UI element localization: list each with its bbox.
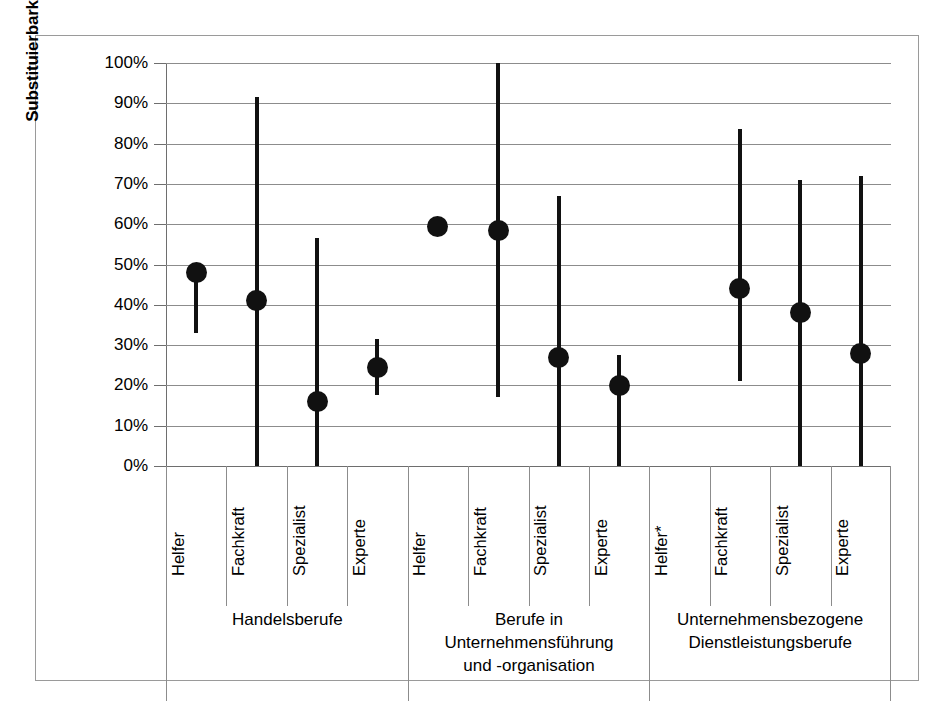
category-cell: Fachkraft xyxy=(468,466,528,606)
y-axis-tick-label: 50% xyxy=(78,256,148,273)
category-cell: Spezialist xyxy=(529,466,589,606)
plot-area: 100%90%80%70%60%50%40%30%20%10%0% xyxy=(166,63,891,466)
y-axis-tick xyxy=(154,426,166,427)
y-axis-tick xyxy=(154,144,166,145)
y-axis-tick-label: 10% xyxy=(78,417,148,434)
category-cell: Helfer* xyxy=(649,466,709,606)
data-point-marker xyxy=(729,278,750,299)
data-point-group xyxy=(408,63,468,466)
y-axis-tick xyxy=(154,265,166,266)
range-whisker xyxy=(738,129,742,381)
category-label: Experte xyxy=(349,519,368,576)
y-axis-tick-label: 0% xyxy=(78,457,148,474)
data-point-group xyxy=(770,63,830,466)
data-point-marker xyxy=(790,302,811,323)
y-axis-tick-label: 80% xyxy=(78,135,148,152)
y-axis-tick xyxy=(154,305,166,306)
data-point-group xyxy=(529,63,589,466)
y-axis-tick xyxy=(154,466,166,467)
y-axis-tick xyxy=(154,63,166,64)
category-cell: Helfer xyxy=(166,466,226,606)
group-cell: Handelsberufe xyxy=(166,606,408,701)
data-point-group xyxy=(589,63,649,466)
category-label: Experte xyxy=(591,519,610,576)
y-axis-title: Substituierbarkeitspotenzial (in %) xyxy=(23,0,47,151)
group-cell: Unternehmensbezogene Dienstleistungsberu… xyxy=(649,606,891,701)
category-cell: Fachkraft xyxy=(710,466,770,606)
y-axis-tick xyxy=(154,224,166,225)
category-label: Experte xyxy=(832,519,851,576)
data-point-group xyxy=(649,63,709,466)
category-cell: Experte xyxy=(347,466,407,606)
category-cell: Spezialist xyxy=(287,466,347,606)
y-axis-tick xyxy=(154,184,166,185)
group-label-band: HandelsberufeBerufe in Unternehmensführu… xyxy=(166,606,891,701)
y-axis-tick-label: 60% xyxy=(78,215,148,232)
data-point-marker xyxy=(427,216,448,237)
category-cell: Spezialist xyxy=(770,466,830,606)
data-point-group xyxy=(287,63,347,466)
category-label: Spezialist xyxy=(531,505,550,576)
data-point-marker xyxy=(307,391,328,412)
chart-page: Substituierbarkeitspotenzial (in %) 100%… xyxy=(0,0,952,721)
group-label: Unternehmensbezogene Dienstleistungsberu… xyxy=(677,608,863,654)
range-whisker xyxy=(557,196,561,466)
range-whisker xyxy=(859,176,863,466)
category-label: Fachkraft xyxy=(470,507,489,576)
data-point-marker xyxy=(488,220,509,241)
y-axis-tick xyxy=(154,345,166,346)
category-label-band: HelferFachkraftSpezialistExperteHelferFa… xyxy=(166,466,891,606)
category-cell: Experte xyxy=(589,466,649,606)
y-axis-tick xyxy=(154,385,166,386)
y-axis-tick-label: 20% xyxy=(78,376,148,393)
y-axis-tick-label: 30% xyxy=(78,336,148,353)
y-axis-tick-label: 70% xyxy=(78,175,148,192)
data-point-marker xyxy=(246,290,267,311)
chart-frame: Substituierbarkeitspotenzial (in %) 100%… xyxy=(35,35,919,681)
category-label: Helfer xyxy=(168,532,187,576)
category-label: Fachkraft xyxy=(229,507,248,576)
range-whisker xyxy=(255,97,259,466)
y-axis-tick-label: 100% xyxy=(78,54,148,71)
group-label: Berufe in Unternehmensführung und -organ… xyxy=(444,608,613,677)
group-cell: Berufe in Unternehmensführung und -organ… xyxy=(408,606,650,701)
group-label: Handelsberufe xyxy=(232,608,343,631)
y-axis-tick xyxy=(154,103,166,104)
data-point-marker xyxy=(609,375,630,396)
data-point-group xyxy=(710,63,770,466)
category-label: Fachkraft xyxy=(712,507,731,576)
category-cell: Fachkraft xyxy=(226,466,286,606)
data-point-group xyxy=(831,63,891,466)
data-point-marker xyxy=(367,357,388,378)
range-whisker xyxy=(617,355,621,466)
data-point-group xyxy=(347,63,407,466)
y-axis-tick-label: 40% xyxy=(78,296,148,313)
category-label: Helfer xyxy=(410,532,429,576)
category-label: Helfer* xyxy=(652,526,671,576)
data-point-group xyxy=(166,63,226,466)
category-cell: Helfer xyxy=(408,466,468,606)
data-point-marker xyxy=(548,347,569,368)
data-point-group xyxy=(226,63,286,466)
data-point-marker xyxy=(186,262,207,283)
range-whisker xyxy=(315,238,319,466)
y-axis-tick-label: 90% xyxy=(78,94,148,111)
category-label: Spezialist xyxy=(772,505,791,576)
category-cell: Experte xyxy=(831,466,891,606)
category-label: Spezialist xyxy=(289,505,308,576)
data-point-marker xyxy=(850,343,871,364)
data-point-group xyxy=(468,63,528,466)
